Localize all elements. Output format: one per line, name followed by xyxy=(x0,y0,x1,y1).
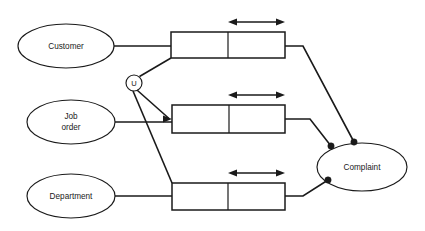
entity-complaint[interactable]: Complaint xyxy=(317,143,407,191)
connector-union-to-top-box xyxy=(140,58,172,77)
er-diagram-svg: Customer Job order Department Complaint … xyxy=(0,0,425,231)
connection-dot-middle xyxy=(328,143,334,149)
entity-customer[interactable]: Customer xyxy=(18,24,114,68)
connector-union-to-middle-box xyxy=(137,90,169,119)
union-node-u-label: U xyxy=(131,79,136,88)
double-arrow-middle-icon xyxy=(228,91,285,98)
entity-customer-label: Customer xyxy=(48,42,84,51)
connection-dot-bottom xyxy=(325,177,331,183)
connection-dot-top xyxy=(351,139,357,145)
connector-middle-box-to-complaint xyxy=(285,119,331,146)
relationship-box-top[interactable] xyxy=(171,32,285,58)
relationship-box-bottom[interactable] xyxy=(172,183,285,210)
double-arrow-top-icon xyxy=(228,18,285,25)
connector-bottom-box-to-complaint xyxy=(285,180,328,196)
entity-job-order-label-line2: order xyxy=(61,123,80,132)
entity-department[interactable]: Department xyxy=(27,174,115,218)
entity-job-order-label-line1: Job xyxy=(64,112,78,121)
entity-complaint-label: Complaint xyxy=(344,163,382,172)
union-node-u[interactable]: U xyxy=(126,75,142,91)
relationship-box-middle[interactable] xyxy=(172,105,285,133)
connector-top-box-to-complaint xyxy=(285,46,354,142)
double-arrow-bottom-icon xyxy=(228,169,285,176)
er-diagram-canvas: Customer Job order Department Complaint … xyxy=(0,0,425,231)
entity-job-order[interactable]: Job order xyxy=(27,100,115,144)
entity-department-label: Department xyxy=(50,192,94,201)
